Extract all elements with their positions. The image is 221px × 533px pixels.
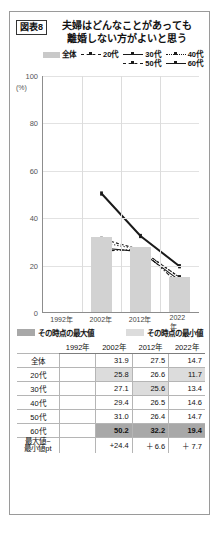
table-cell: 19.4: [169, 424, 205, 438]
legend-label-20dai: 20代: [103, 50, 118, 59]
table-cell: [59, 438, 95, 454]
x-axis-tick-2022年: 2022年: [170, 314, 190, 331]
table-row-header: 全体: [17, 354, 59, 368]
table-col-header-1992年: 1992年: [59, 340, 95, 354]
y-axis-tick-labels: 100806040200: [16, 72, 40, 325]
gridline-v: [121, 76, 122, 312]
table-row: 30代27.125.613.4: [17, 382, 205, 396]
table-corner-cell: [17, 340, 59, 354]
table-cell: 25.6: [132, 382, 168, 396]
legend-line-thick-icon: [166, 60, 186, 67]
figure-title-row: 図表8 夫婦はどんなことがあっても 離婚しない方がよいと思う: [16, 19, 203, 45]
table-cell: 27.5: [132, 354, 168, 368]
table-row: 50代31.026.414.7: [17, 410, 205, 424]
table-row-header: 40代: [17, 396, 59, 410]
legend-label-60dai: 60代: [188, 59, 203, 68]
x-axis-tick-2012年: 2012年: [129, 314, 152, 324]
table-row-header: 30代: [17, 382, 59, 396]
chart-legend: 全体 20代 30代 40代 50代 60代: [10, 50, 203, 68]
chart-plot-area: (%) 100806040200 1992年2002年2012年2022年: [16, 72, 201, 325]
gridline-v: [160, 76, 161, 312]
table-cell: [59, 368, 95, 382]
page-title-line1: 夫婦はどんなことがあっても: [50, 19, 203, 32]
marker-60代-1: [139, 234, 142, 238]
y-axis-tick-0: 0: [34, 309, 38, 318]
legend-item-50dai: 50代: [123, 59, 160, 68]
x-axis-tick-labels: 1992年2002年2012年2022年: [42, 314, 199, 325]
legend-label-zentai: 全体: [62, 50, 76, 59]
legend-line-dashdot-icon: [81, 51, 101, 58]
table-row: 40代29.426.514.6: [17, 396, 205, 410]
bar-zentai-2012年: [130, 247, 152, 312]
table-row: 最大値−最小値pt+24.4＋ 6.6＋ 7.7: [17, 438, 205, 454]
table-cell: +24.4: [96, 438, 132, 454]
table-body: 全体31.927.514.720代25.826.611.730代27.125.6…: [17, 354, 205, 454]
table-cell: 26.6: [132, 368, 168, 382]
bar-zentai-2002年: [91, 237, 113, 312]
y-axis-tick-100: 100: [25, 72, 38, 81]
table-cell: 14.7: [169, 354, 205, 368]
table-cell: 25.8: [96, 368, 132, 382]
table-cell: ＋ 6.6: [132, 438, 168, 454]
legend-item-zentai: 全体: [43, 50, 76, 59]
table-cell: 14.6: [169, 396, 205, 410]
legend-item-60dai: 60代: [166, 59, 203, 68]
legend-item-40dai: 40代: [166, 50, 203, 59]
legend-line-dotted-icon: [166, 51, 186, 58]
gridline-v: [82, 76, 83, 312]
table-row-header: 最大値−最小値pt: [17, 438, 59, 454]
x-axis-tick-1992年: 1992年: [50, 314, 73, 324]
x-axis-tick-2002年: 2002年: [90, 314, 113, 324]
table-cell: [59, 354, 95, 368]
table-cell: 50.2: [96, 424, 132, 438]
table-cell: 32.2: [132, 424, 168, 438]
legend-line-dashed-icon: [123, 60, 143, 67]
max-key-label: その時点の最大値: [38, 327, 94, 338]
table-cell: 29.4: [96, 396, 132, 410]
legend-item-30dai: 30代: [123, 50, 160, 59]
min-swatch-icon: [126, 329, 144, 336]
table-row: 全体31.927.514.7: [17, 354, 205, 368]
table-cell: ＋ 7.7: [169, 438, 205, 454]
table-cell: 11.7: [169, 368, 205, 382]
table-cell: [59, 424, 95, 438]
data-table: 1992年2002年2012年2022年 全体31.927.514.720代25…: [17, 340, 205, 453]
table-cell: 13.4: [169, 382, 205, 396]
row-header-line-1: 最小値pt: [20, 446, 56, 453]
legend-swatch-bar-icon: [43, 52, 60, 58]
marker-60代-0: [100, 191, 103, 195]
table-cell: [59, 382, 95, 396]
y-axis-tick-40: 40: [30, 214, 38, 223]
figure-panel: 図表8 夫婦はどんなことがあっても 離婚しない方がよいと思う 全体 20代 30…: [9, 11, 210, 515]
table-cell: 31.0: [96, 410, 132, 424]
table-cell: 31.9: [96, 354, 132, 368]
max-swatch-icon: [17, 329, 35, 336]
table-cell: 26.4: [132, 410, 168, 424]
legend-item-20dai: 20代: [81, 50, 118, 59]
table-header-row: 1992年2002年2012年2022年: [17, 340, 205, 354]
table-row: 20代25.826.611.7: [17, 368, 205, 382]
table-row-header: 20代: [17, 368, 59, 382]
legend-label-30dai: 30代: [145, 50, 160, 59]
y-axis-tick-80: 80: [30, 119, 38, 128]
table-cell: 26.5: [132, 396, 168, 410]
page-title: 夫婦はどんなことがあっても 離婚しない方がよいと思う: [47, 19, 203, 45]
page-title-line2: 離婚しない方がよいと思う: [50, 32, 203, 45]
table-head: 1992年2002年2012年2022年: [17, 340, 205, 354]
table-row: 60代50.232.219.4: [17, 424, 205, 438]
table-cell: [59, 396, 95, 410]
table-cell: [59, 410, 95, 424]
y-axis-tick-60: 60: [30, 166, 38, 175]
legend-line-solid-icon: [123, 51, 143, 58]
table-col-header-2002年: 2002年: [96, 340, 132, 354]
figure-number-badge: 図表8: [16, 20, 47, 35]
table-cell: 14.7: [169, 410, 205, 424]
table-col-header-2022年: 2022年: [169, 340, 205, 354]
table-col-header-2012年: 2012年: [132, 340, 168, 354]
chart-grid: [42, 76, 199, 313]
legend-label-50dai: 50代: [145, 59, 160, 68]
legend-label-40dai: 40代: [188, 50, 203, 59]
table-cell: 27.1: [96, 382, 132, 396]
table-row-header: 60代: [17, 424, 59, 438]
bar-zentai-2022年: [169, 277, 191, 312]
